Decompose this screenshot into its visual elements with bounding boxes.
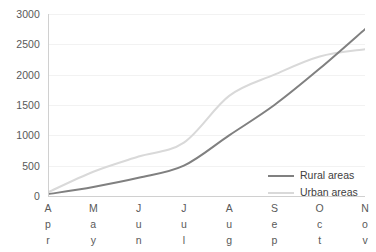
y-axis-line — [48, 14, 49, 197]
x-axis-tick-char: N — [345, 200, 376, 216]
y-axis-tick-label: 500 — [0, 160, 40, 171]
x-axis-tick-char: t — [300, 232, 340, 248]
x-axis-tick-label: May — [73, 200, 113, 248]
legend-item-label: Urban areas — [300, 187, 358, 198]
chart-legend: Rural areasUrban areas — [268, 167, 372, 201]
legend-line-swatch-icon — [268, 192, 294, 194]
x-axis-tick-char: p — [28, 216, 68, 232]
x-axis-tick-char: a — [73, 216, 113, 232]
x-axis-tick-char: y — [73, 232, 113, 248]
x-axis-tick-char: g — [209, 232, 249, 248]
x-axis-tick-char: u — [209, 216, 249, 232]
y-axis-tick-label: 2000 — [0, 69, 40, 80]
x-axis-tick-char: A — [28, 200, 68, 216]
y-axis-tick-label: 1000 — [0, 130, 40, 141]
x-axis-tick-char: r — [28, 232, 68, 248]
x-axis-tick-label: Apr — [28, 200, 68, 248]
legend-item-label: Rural areas — [300, 170, 354, 181]
x-axis-tick-label: Sep — [254, 200, 294, 248]
x-axis-tick-label: Jun — [119, 200, 159, 248]
x-axis-tick-labels: AprMayJunJulAugSepOctNov — [48, 200, 365, 252]
x-axis-tick-char: M — [73, 200, 113, 216]
x-axis-tick-char: O — [300, 200, 340, 216]
y-axis-tick-label: 3000 — [0, 9, 40, 20]
x-axis-tick-char: u — [119, 216, 159, 232]
y-axis-tick-label: 1500 — [0, 100, 40, 111]
x-axis-tick-char: c — [300, 216, 340, 232]
legend-line-swatch-icon — [268, 175, 294, 177]
x-axis-tick-char: v — [345, 232, 376, 248]
x-axis-tick-char: p — [254, 232, 294, 248]
x-axis-tick-char: l — [164, 232, 204, 248]
x-axis-tick-label: Jul — [164, 200, 204, 248]
x-axis-tick-char: J — [164, 200, 204, 216]
x-axis-tick-char: n — [119, 232, 159, 248]
x-axis-tick-char: S — [254, 200, 294, 216]
x-axis-tick-char: A — [209, 200, 249, 216]
legend-item[interactable]: Urban areas — [268, 184, 372, 201]
x-axis-tick-label: Nov — [345, 200, 376, 248]
x-axis-tick-char: o — [345, 216, 376, 232]
x-axis-tick-char: e — [254, 216, 294, 232]
x-axis-tick-label: Oct — [300, 200, 340, 248]
x-axis-tick-char: J — [119, 200, 159, 216]
x-axis-tick-char: u — [164, 216, 204, 232]
legend-item[interactable]: Rural areas — [268, 167, 372, 184]
line-chart: 050010001500200025003000 AprMayJunJulAug… — [0, 0, 376, 252]
x-axis-tick-label: Aug — [209, 200, 249, 248]
y-axis-tick-label: 2500 — [0, 39, 40, 50]
